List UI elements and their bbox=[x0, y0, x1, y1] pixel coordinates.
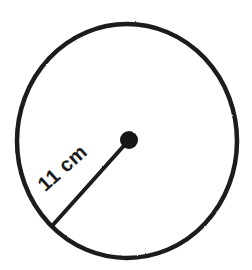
geometry-figure-canvas: 11 cm bbox=[0, 0, 252, 270]
center-dot bbox=[120, 131, 138, 149]
circle-diagram-svg bbox=[0, 0, 252, 270]
